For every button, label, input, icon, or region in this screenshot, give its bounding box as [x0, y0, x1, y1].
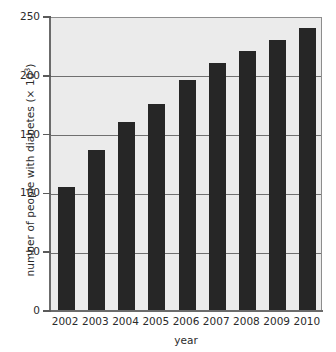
y-tick-mark — [43, 193, 51, 195]
x-axis-title: year — [50, 334, 322, 346]
x-tick-label: 2010 — [292, 315, 322, 328]
x-tick-label: 2007 — [201, 315, 231, 328]
y-tick-label: 100 — [0, 187, 40, 198]
y-tick-mark — [43, 251, 51, 253]
x-tick-label: 2005 — [141, 315, 171, 328]
y-tick-label: 200 — [0, 70, 40, 81]
bar — [148, 104, 165, 310]
x-tick-label: 2004 — [111, 315, 141, 328]
y-tick-label: 0 — [0, 305, 40, 316]
bar-chart: number of people with diabetes (× 103) 0… — [0, 0, 336, 352]
y-axis-line — [49, 16, 51, 312]
bar — [58, 187, 75, 310]
y-tick-label: 150 — [0, 129, 40, 140]
y-tick-mark — [43, 310, 51, 312]
y-tick-mark — [43, 16, 51, 18]
x-tick-label: 2009 — [262, 315, 292, 328]
x-axis-line — [49, 310, 323, 312]
x-tick-label: 2003 — [80, 315, 110, 328]
x-tick-label: 2008 — [231, 315, 261, 328]
bar — [269, 40, 286, 310]
y-axis-title-suffix: ) — [24, 63, 36, 67]
y-tick-mark — [43, 134, 51, 136]
bar — [239, 51, 256, 310]
x-tick-label: 2006 — [171, 315, 201, 328]
bar — [179, 80, 196, 310]
y-tick-label: 50 — [0, 246, 40, 257]
plot-area — [50, 17, 322, 311]
bar — [118, 122, 135, 310]
y-tick-mark — [43, 75, 51, 77]
bar — [299, 28, 316, 310]
x-tick-label: 2002 — [50, 315, 80, 328]
bar — [209, 63, 226, 310]
bar — [88, 150, 105, 310]
y-tick-label: 250 — [0, 11, 40, 22]
